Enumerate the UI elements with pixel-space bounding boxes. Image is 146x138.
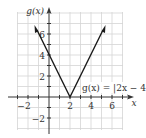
y-axis-title: g(x) [26, 6, 44, 16]
graph-canvas: −2 2 4 6 6 4 2 −2 g(x) x g(x) = |2x − 4| [0, 0, 146, 138]
x-tick-label: 4 [88, 101, 94, 111]
grid [17, 12, 123, 130]
x-axis-title: x [131, 98, 136, 108]
x-tick-label: 6 [109, 101, 115, 111]
equation-label: g(x) = |2x − 4| [82, 83, 146, 94]
y-tick-label: −2 [32, 114, 45, 124]
y-tick-label: 2 [39, 72, 45, 82]
y-tick-label: 4 [39, 51, 45, 61]
x-tick-label: −2 [17, 101, 30, 111]
x-tick-label: 2 [67, 101, 73, 111]
